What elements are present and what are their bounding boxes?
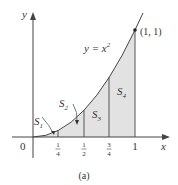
region-label-s2: S2 bbox=[59, 97, 69, 112]
svg-text:2: 2 bbox=[82, 150, 86, 158]
curve-label: y = x2 bbox=[83, 41, 111, 54]
figure-caption: (a) bbox=[78, 170, 89, 182]
tick-three-quarter: 3 4 bbox=[107, 141, 112, 158]
region-label-s1: S1 bbox=[34, 115, 43, 130]
svg-text:4: 4 bbox=[107, 150, 111, 158]
y-axis-label: y bbox=[21, 8, 27, 20]
x-axis-label: x bbox=[160, 140, 166, 152]
svg-text:4: 4 bbox=[56, 150, 60, 158]
area-under-parabola-diagram: y x 0 (1, 1) y = x2 S1 S2 S3 S4 1 4 1 2 … bbox=[0, 0, 178, 185]
svg-text:1: 1 bbox=[82, 141, 86, 149]
tick-half: 1 2 bbox=[82, 141, 87, 158]
tick-quarter: 1 4 bbox=[56, 141, 61, 158]
point-label: (1, 1) bbox=[140, 26, 162, 38]
origin-label: 0 bbox=[20, 140, 26, 152]
svg-text:3: 3 bbox=[107, 141, 111, 149]
svg-text:1: 1 bbox=[56, 141, 60, 149]
y-axis-arrow-icon bbox=[30, 12, 36, 20]
point-marker bbox=[133, 28, 137, 32]
tick-one: 1 bbox=[132, 140, 138, 152]
s1-pointer-arrow bbox=[42, 117, 53, 133]
